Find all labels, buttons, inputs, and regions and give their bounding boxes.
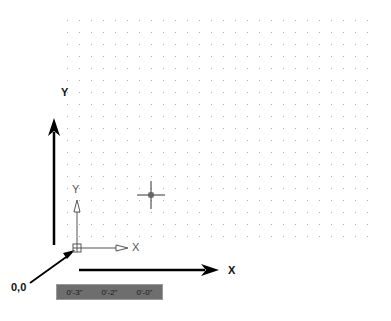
origin-pointer-arrow xyxy=(30,250,75,283)
y-axis-label: Y xyxy=(61,86,68,98)
coord-x: 0'-3" xyxy=(67,288,83,297)
ucs-y-label: Y xyxy=(72,183,79,195)
coord-z: 0'-0" xyxy=(137,288,153,297)
x-axis-label: X xyxy=(228,264,235,276)
origin-label: 0,0 xyxy=(11,281,26,293)
coordinate-statusbar: 0'-3" 0'-2" 0'-0" xyxy=(56,284,163,300)
coord-y: 0'-2" xyxy=(102,288,118,297)
y-axis-arrow xyxy=(48,118,60,245)
crosshair-cursor xyxy=(137,181,165,209)
drawing-canvas[interactable] xyxy=(0,0,391,321)
ucs-x-label: X xyxy=(132,241,139,253)
ucs-icon xyxy=(73,200,128,252)
grid-dots xyxy=(67,20,368,237)
x-axis-arrow xyxy=(79,264,219,276)
